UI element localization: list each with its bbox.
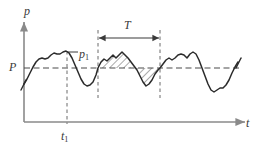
y-axis-label: p [24,5,30,17]
x-axis-label: t [246,117,249,129]
pressure-time-figure: p P p1 T t1 t [0,0,259,153]
mean-pressure-label: P [9,61,16,73]
p1-subscript: 1 [85,53,89,62]
period-label: T [124,19,131,31]
t1-subscript: 1 [64,135,68,144]
time-instant-label: t1 [61,130,68,142]
pressure-curve [24,51,238,92]
instantaneous-pressure-label: p1 [79,48,89,60]
